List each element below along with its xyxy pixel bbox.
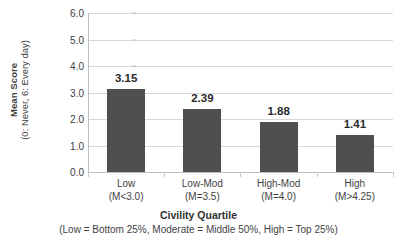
y-tick-label-4: 4.0 (48, 61, 84, 72)
x-category-high-name: High (317, 178, 393, 191)
bar-slot-high: 1.41 (317, 13, 393, 172)
y-tick-label-6: 6.0 (48, 8, 84, 19)
y-axis-title: Mean Score (0: Never, 6: Every day) (0, 0, 40, 180)
x-category-high-sub: (M>4.25) (317, 191, 393, 204)
bar-value-label-high: 1.41 (317, 118, 393, 130)
bar-slot-high-mod: 1.88 (241, 13, 317, 172)
bar-value-label-low-mod: 2.39 (164, 92, 240, 104)
x-axis-separator-4 (393, 172, 394, 177)
x-axis-separator-0 (88, 172, 89, 177)
y-tick-label-2: 2.0 (48, 114, 84, 125)
x-category-high: High (M>4.25) (317, 178, 393, 203)
bar-high-mod[interactable] (260, 122, 298, 172)
y-axis-title-sub: (0: Never, 6: Every day) (20, 40, 31, 140)
x-axis-separator-1 (164, 172, 165, 177)
bar-low[interactable] (107, 89, 145, 172)
x-category-low-mod: Low-Mod (M=3.5) (164, 178, 240, 203)
bar-low-mod[interactable] (183, 109, 221, 172)
bar-high[interactable] (336, 135, 374, 172)
y-tick-label-5: 5.0 (48, 34, 84, 45)
x-axis-title: Civility Quartile (0, 209, 397, 221)
x-axis-subtitle: (Low = Bottom 25%, Moderate = Middle 50%… (0, 224, 397, 235)
y-axis-ticks: 6.0 5.0 4.0 3.0 2.0 1.0 0.0 (44, 0, 84, 241)
x-category-high-mod-name: High-Mod (241, 178, 317, 191)
bar-chart: Mean Score (0: Never, 6: Every day) 6.0 … (0, 0, 397, 241)
x-axis-category-labels: Low (M<3.0) Low-Mod (M=3.5) High-Mod (M=… (88, 178, 393, 210)
bars-layer: 3.15 2.39 1.88 1.41 (88, 13, 393, 172)
x-category-high-mod: High-Mod (M=4.0) (241, 178, 317, 203)
x-category-low-sub: (M<3.0) (88, 191, 164, 204)
x-axis-separator-3 (317, 172, 318, 177)
bar-value-label-high-mod: 1.88 (241, 105, 317, 117)
bar-slot-low: 3.15 (88, 13, 164, 172)
bar-value-label-low: 3.15 (88, 72, 164, 84)
x-category-low-mod-name: Low-Mod (164, 178, 240, 191)
x-category-high-mod-sub: (M=4.0) (241, 191, 317, 204)
x-category-low-name: Low (88, 178, 164, 191)
y-tick-label-3: 3.0 (48, 87, 84, 98)
x-category-low: Low (M<3.0) (88, 178, 164, 203)
bar-slot-low-mod: 2.39 (164, 13, 240, 172)
y-tick-label-0: 0.0 (48, 167, 84, 178)
y-tick-label-1: 1.0 (48, 140, 84, 151)
x-category-low-mod-sub: (M=3.5) (164, 191, 240, 204)
x-axis-separator-2 (240, 172, 241, 177)
